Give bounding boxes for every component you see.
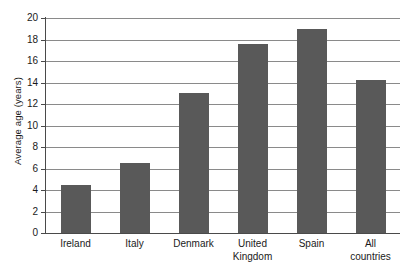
bar bbox=[120, 163, 150, 233]
y-tick-label-18: 18 bbox=[14, 35, 38, 45]
x-tick-label: Denmark bbox=[164, 238, 223, 251]
x-tick-label: United Kingdom bbox=[223, 238, 282, 263]
bar bbox=[61, 185, 91, 233]
x-tick-label: Spain bbox=[282, 238, 341, 251]
gridline-2 bbox=[46, 212, 400, 213]
bar bbox=[356, 80, 386, 233]
gridline-0 bbox=[46, 233, 400, 234]
gridline-4 bbox=[46, 190, 400, 191]
y-tick-label-2: 2 bbox=[14, 207, 38, 217]
gridline-12 bbox=[46, 104, 400, 105]
gridline-10 bbox=[46, 126, 400, 127]
x-tick-label: Italy bbox=[105, 238, 164, 251]
gridline-18 bbox=[46, 40, 400, 41]
y-tick-label-14: 14 bbox=[14, 78, 38, 88]
bar bbox=[238, 44, 268, 233]
bar-chart-figure: Average age (years) 02468101214161820 Ir… bbox=[0, 0, 407, 268]
y-tick-label-6: 6 bbox=[14, 164, 38, 174]
bar bbox=[297, 29, 327, 233]
gridline-20 bbox=[46, 18, 400, 19]
gridline-8 bbox=[46, 147, 400, 148]
gridline-16 bbox=[46, 61, 400, 62]
x-tick-label: All countries bbox=[341, 238, 400, 263]
y-tick-label-12: 12 bbox=[14, 99, 38, 109]
y-tick-label-16: 16 bbox=[14, 56, 38, 66]
y-tick-label-0: 0 bbox=[14, 228, 38, 238]
bar bbox=[179, 93, 209, 233]
plot-area bbox=[46, 18, 400, 233]
y-tick-label-10: 10 bbox=[14, 121, 38, 131]
gridline-6 bbox=[46, 169, 400, 170]
y-tick-label-4: 4 bbox=[14, 185, 38, 195]
y-tick-label-20: 20 bbox=[14, 13, 38, 23]
x-tick-label: Ireland bbox=[46, 238, 105, 251]
y-tick-label-8: 8 bbox=[14, 142, 38, 152]
gridline-14 bbox=[46, 83, 400, 84]
